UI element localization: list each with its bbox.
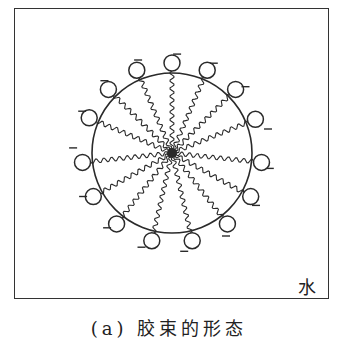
micelle-core — [167, 148, 177, 158]
hydrocarbon-tail — [176, 152, 254, 163]
hydrocarbon-tail — [170, 71, 174, 149]
hydrocarbon-tail — [90, 152, 168, 164]
polar-head — [228, 81, 244, 97]
polar-head — [199, 62, 215, 78]
hydrocarbon-tail — [174, 156, 223, 217]
hydrocarbon-tail — [139, 78, 172, 150]
hydrocarbon-tail — [176, 121, 248, 153]
medium-label-water: 水 — [298, 273, 316, 299]
polar-head — [81, 110, 97, 126]
polar-head — [184, 233, 200, 249]
polar-head — [219, 216, 235, 232]
polar-head — [100, 81, 116, 97]
polar-head — [109, 216, 125, 232]
polar-head — [243, 189, 259, 205]
hydrocarbon-tail — [171, 157, 192, 233]
polar-head — [247, 111, 263, 127]
polar-head — [75, 154, 91, 170]
polar-head — [144, 233, 160, 249]
polar-head — [164, 55, 180, 71]
figure-caption: (a) 胶束的形态 — [0, 314, 338, 340]
polar-head — [129, 62, 145, 78]
polar-head — [85, 189, 101, 205]
